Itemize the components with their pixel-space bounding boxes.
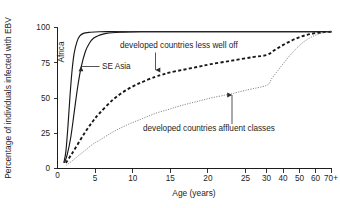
x-tick-label-5: 5 [93, 174, 98, 183]
x-tick-label-60: 60 [311, 174, 321, 183]
y-tick-label-25: 25 [41, 129, 51, 138]
series-africa-curve [64, 32, 332, 163]
series-less-well-off-curve [66, 32, 332, 163]
annotations: Africa SE Asia developed countries less … [57, 41, 275, 134]
y-axis-ticks: 0 25 50 75 100 [36, 23, 57, 173]
x-tick-label-25: 25 [241, 174, 251, 183]
affluent-classes-label: developed countries affluent classes [143, 124, 275, 133]
x-tick-label-0: 0 [55, 171, 60, 180]
africa-label: Africa [57, 41, 66, 62]
y-tick-label-100: 100 [36, 23, 50, 32]
x-tick-label-40: 40 [279, 174, 289, 183]
x-axis-ticks: 0 5 10 15 20 25 30 40 50 60 70+ [55, 169, 338, 183]
y-tick-label-0: 0 [45, 164, 50, 173]
y-axis-title: Percentage of individuals infected with … [3, 17, 13, 179]
x-tick-label-70plus: 70+ [324, 174, 338, 183]
x-axis-title: Age (years) [172, 188, 215, 198]
chart-figure: 0 25 50 75 100 0 5 10 15 20 25 30 40 [0, 0, 340, 208]
series-affluent-classes-curve [66, 32, 332, 166]
y-tick-label-50: 50 [41, 94, 51, 103]
x-tick-label-20: 20 [203, 174, 213, 183]
x-tick-label-30: 30 [262, 174, 272, 183]
data-series [64, 32, 332, 166]
x-tick-label-15: 15 [166, 174, 176, 183]
less-well-off-label: developed countries less well off [120, 41, 238, 50]
x-tick-label-10: 10 [128, 174, 138, 183]
series-se-asia-curve [64, 32, 331, 163]
y-tick-label-75: 75 [41, 59, 51, 68]
x-tick-label-50: 50 [295, 174, 305, 183]
chart-svg: 0 25 50 75 100 0 5 10 15 20 25 30 40 [0, 0, 340, 208]
se-asia-label: SE Asia [102, 62, 131, 71]
